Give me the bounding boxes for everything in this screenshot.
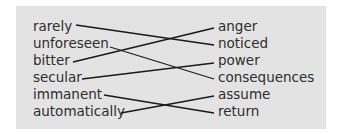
line-rarely-noticed	[76, 25, 214, 45]
connection-lines	[16, 6, 326, 129]
line-immanent-return	[104, 95, 214, 113]
matching-panel: rarely unforeseen bitter secular immanen…	[16, 6, 326, 129]
line-secular-power	[82, 63, 214, 79]
